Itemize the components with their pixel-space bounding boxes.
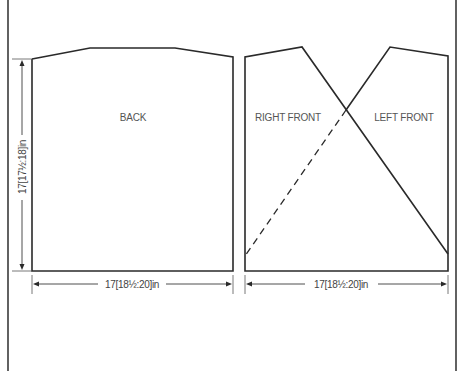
right-front-outline (245, 47, 448, 256)
arrow-up-icon (20, 60, 25, 66)
arrow-left-icon (33, 282, 39, 287)
back-label: BACK (120, 112, 147, 123)
right-front-label: RIGHT FRONT (255, 112, 321, 123)
left-front-label: LEFT FRONT (374, 112, 434, 123)
garment-schematic: BACK RIGHT FRONT LEFT FRONT 17[17½:18]in… (0, 0, 461, 371)
back-length-dimension: 17[17½:18]in (17, 140, 28, 194)
left-front-outline (245, 47, 448, 271)
back-piece-outline (32, 48, 233, 271)
arrow-left-icon (246, 282, 252, 287)
arrow-down-icon (20, 264, 25, 270)
back-width-dimension: 17[18½:20]in (105, 279, 159, 290)
front-width-dimension: 17[18½:20]in (314, 279, 368, 290)
arrow-right-icon (226, 282, 232, 287)
left-front-hidden-edge (245, 110, 346, 256)
arrow-right-icon (441, 282, 447, 287)
